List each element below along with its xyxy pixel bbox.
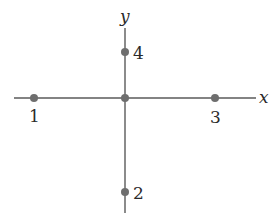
- point-3: [211, 94, 219, 102]
- x-axis-label: x: [259, 87, 269, 107]
- point-3-label: 3: [210, 107, 221, 127]
- point-2: [121, 188, 129, 196]
- point-2-label: 2: [133, 183, 144, 203]
- point-origin: [121, 94, 129, 102]
- coordinate-diagram: y x 1 3 4 2: [0, 0, 280, 220]
- point-1: [30, 94, 38, 102]
- point-4: [121, 48, 129, 56]
- point-1-label: 1: [29, 106, 40, 126]
- point-4-label: 4: [133, 43, 144, 63]
- y-axis-label: y: [119, 6, 130, 26]
